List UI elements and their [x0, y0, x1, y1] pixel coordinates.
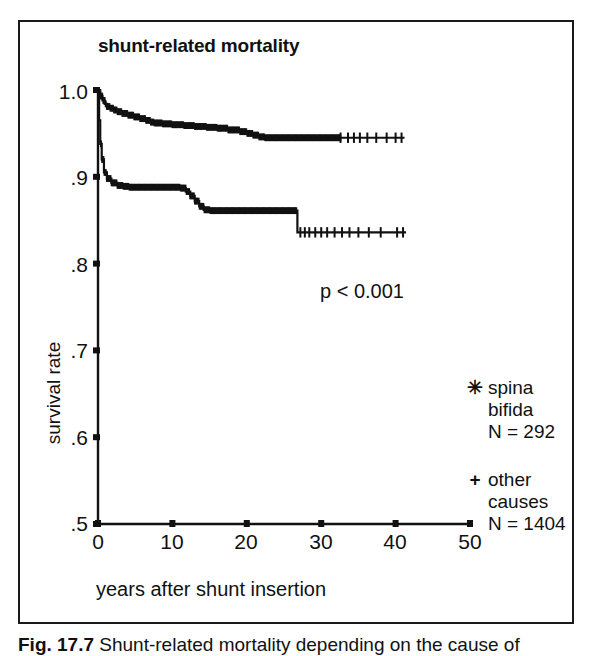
survival-curves [98, 90, 406, 238]
legend-text-other-causes: other causes N = 1404 [488, 469, 591, 535]
x-tick-label-1: 0 [78, 530, 118, 554]
figure-frame: shunt-related mortality 1.0 .9 .8 .7 .6 … [18, 20, 574, 624]
legend-line-2: bifida [488, 399, 591, 421]
y-tick-label-2: .9 [38, 166, 88, 190]
x-axis-title: years after shunt insertion [96, 578, 326, 601]
legend: ✳ spina bifida N = 292 + other causes N … [466, 377, 591, 561]
x-tick-label-3: 20 [226, 530, 266, 554]
x-tick-label-2: 10 [152, 530, 192, 554]
p-value-annotation: p < 0.001 [320, 280, 404, 303]
legend-line-1: spina [488, 377, 591, 399]
legend-line-3: N = 1404 [488, 513, 591, 535]
censor-ticks-spina-bifida [101, 140, 403, 237]
legend-text-spina-bifida: spina bifida N = 292 [488, 377, 591, 443]
x-tick-label-5: 40 [375, 530, 415, 554]
asterisk-censor-marker-icon: ✳ [466, 377, 484, 399]
y-axis-title: survival rate [43, 323, 65, 463]
legend-line-3: N = 292 [488, 421, 591, 443]
legend-line-2: causes [488, 491, 591, 513]
y-tick-label-3: .8 [38, 253, 88, 277]
figure-caption: Fig. 17.7 Shunt-related mortality depend… [18, 634, 578, 656]
figure-caption-label: Fig. 17.7 [18, 634, 94, 655]
legend-entry-other-causes: + other causes N = 1404 [466, 469, 591, 535]
x-tick-label-4: 30 [301, 530, 341, 554]
legend-entry-spina-bifida: ✳ spina bifida N = 292 [466, 377, 591, 443]
plus-censor-marker-icon: + [466, 469, 484, 491]
y-tick-label-1: 1.0 [38, 80, 88, 104]
figure-caption-text: Shunt-related mortality depending on the… [99, 634, 519, 655]
legend-line-1: other [488, 469, 591, 491]
censor-ticks-other-causes [101, 93, 402, 143]
